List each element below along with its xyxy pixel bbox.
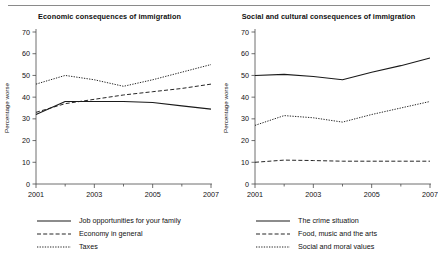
- chart-legend-social: The crime situationFood, music and the a…: [255, 214, 438, 253]
- legend-label: Taxes: [79, 242, 98, 252]
- y-tick-label: 10: [241, 158, 249, 167]
- legend-item: Job opportunities for your family: [36, 214, 219, 227]
- legend-item: The crime situation: [255, 214, 438, 227]
- legend-line-swatch: [255, 216, 291, 226]
- x-tick-label: 2007: [422, 190, 438, 199]
- x-tick-label: 2005: [145, 190, 161, 199]
- chart-title-economic: Economic consequences of immigration: [0, 12, 219, 21]
- legend-line-swatch: [36, 229, 72, 239]
- y-tick-label: 0: [245, 180, 249, 189]
- y-tick-label: 50: [22, 71, 30, 80]
- legend-item: Economy in general: [36, 227, 219, 240]
- legend-line-swatch: [255, 242, 291, 252]
- series-line-2: [255, 101, 430, 125]
- y-tick-label: 50: [241, 71, 249, 80]
- legend-line-swatch: [36, 242, 72, 252]
- chart-panels: Economic consequences of immigration 010…: [0, 8, 438, 266]
- legend-item: Food, music and the arts: [255, 227, 438, 240]
- y-tick-label: 0: [26, 180, 30, 189]
- chart-panel-social: Social and cultural consequences of immi…: [219, 8, 438, 266]
- legend-label: Job opportunities for your family: [79, 216, 181, 226]
- x-tick-label: 2001: [28, 190, 44, 199]
- x-tick-label: 2005: [364, 190, 380, 199]
- y-tick-label: 70: [241, 28, 249, 37]
- y-tick-label: 20: [241, 136, 249, 145]
- chart-svg: 0102030405060702001200320052007Percentag…: [0, 22, 219, 214]
- legend-label: Economy in general: [79, 229, 143, 239]
- chart-legend-economic: Job opportunities for your familyEconomy…: [36, 214, 219, 253]
- series-line-0: [36, 101, 211, 114]
- figure-page: Economic consequences of immigration 010…: [0, 0, 438, 269]
- chart-svg: 0102030405060702001200320052007Percentag…: [219, 22, 438, 214]
- x-tick-label: 2003: [305, 190, 321, 199]
- series-line-1: [36, 84, 211, 112]
- y-tick-label: 60: [241, 49, 249, 58]
- legend-item: Taxes: [36, 240, 219, 253]
- series-line-1: [255, 160, 430, 162]
- legend-item: Social and moral values: [255, 240, 438, 253]
- y-axis-title: Percentage worse: [3, 83, 10, 133]
- y-tick-label: 40: [22, 93, 30, 102]
- y-tick-label: 30: [22, 114, 30, 123]
- legend-label: Social and moral values: [298, 242, 374, 252]
- series-line-0: [255, 58, 430, 80]
- chart-panel-economic: Economic consequences of immigration 010…: [0, 8, 219, 266]
- y-tick-label: 40: [241, 93, 249, 102]
- y-tick-label: 70: [22, 28, 30, 37]
- legend-label: The crime situation: [298, 216, 359, 226]
- x-tick-label: 2003: [86, 190, 102, 199]
- x-tick-label: 2007: [203, 190, 219, 199]
- legend-line-swatch: [36, 216, 72, 226]
- y-axis-title: Percentage worse: [222, 83, 229, 133]
- x-tick-label: 2001: [247, 190, 263, 199]
- legend-label: Food, music and the arts: [298, 229, 377, 239]
- y-tick-label: 30: [241, 114, 249, 123]
- chart-title-social: Social and cultural consequences of immi…: [219, 12, 438, 21]
- header-divider: [8, 5, 430, 6]
- y-tick-label: 60: [22, 49, 30, 58]
- series-line-2: [36, 65, 211, 87]
- y-tick-label: 10: [22, 158, 30, 167]
- y-tick-label: 20: [22, 136, 30, 145]
- legend-line-swatch: [255, 229, 291, 239]
